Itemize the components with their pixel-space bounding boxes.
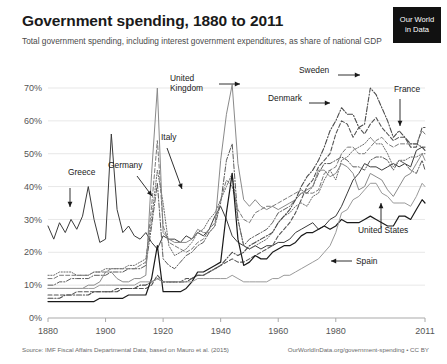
y-axis-tick-label: 50% xyxy=(24,149,42,159)
annotation-arrowhead-france xyxy=(398,121,403,126)
annotation-label-sweden: Sweden xyxy=(299,65,330,75)
annotation-label-spain: Spain xyxy=(356,256,378,266)
y-axis-tick-label: 0% xyxy=(29,313,42,323)
annotation-arrowhead-italy xyxy=(178,183,183,189)
annotation-arrowhead-united-states xyxy=(379,203,384,208)
y-axis-tick-label: 30% xyxy=(24,215,42,225)
annotation-label-italy: Italy xyxy=(161,132,177,142)
y-axis-tick-label: 60% xyxy=(24,116,42,126)
attribution-note[interactable]: OurWorldInData.org/government-spending •… xyxy=(288,346,429,353)
annotation-label-denmark: Denmark xyxy=(268,93,303,103)
x-axis-ticks: 1880190019201940196019802011 xyxy=(38,326,435,336)
y-axis-tick-label: 20% xyxy=(24,247,42,257)
x-axis-tick-label: 1940 xyxy=(211,326,231,336)
annotation-arrowhead-denmark xyxy=(325,101,330,106)
annotation-label-united-states: United States xyxy=(358,225,408,235)
x-axis-tick-label: 1960 xyxy=(268,326,288,336)
x-axis-line xyxy=(48,318,425,322)
series-line-spain[interactable] xyxy=(48,183,425,288)
annotation-arrowhead-united-kingdom xyxy=(235,82,240,87)
line-chart: 0%10%20%30%40%50%60%70% 1880190019201940… xyxy=(0,0,447,364)
x-axis-tick-label: 1900 xyxy=(96,326,116,336)
chart-page: Government spending, 1880 to 2011 Total … xyxy=(0,0,447,364)
x-axis-tick-label: 1980 xyxy=(326,326,346,336)
chart-svg: 0%10%20%30%40%50%60%70% 1880190019201940… xyxy=(0,0,447,364)
annotation-arrowhead-spain xyxy=(331,259,336,264)
y-axis-tick-label: 40% xyxy=(24,182,42,192)
annotation-label-greece: Greece xyxy=(68,167,96,177)
annotation-label-france: France xyxy=(394,84,420,94)
x-axis-tick-label: 1920 xyxy=(153,326,173,336)
x-axis-tick-label: 1880 xyxy=(38,326,58,336)
y-axis-tick-label: 10% xyxy=(24,280,42,290)
annotation-label-germany: Germany xyxy=(108,160,143,170)
y-axis-tick-label: 70% xyxy=(24,83,42,93)
annotation-arrowhead-greece xyxy=(68,202,73,207)
y-axis-ticks: 0%10%20%30%40%50%60%70% xyxy=(24,83,42,323)
series-lines xyxy=(48,85,425,302)
annotation-arrowhead-sweden xyxy=(355,73,360,78)
annotation-arrowhead-germany xyxy=(147,190,152,196)
annotation-label-united-kingdom: UnitedKingdom xyxy=(170,73,203,93)
series-line-united-states[interactable] xyxy=(48,173,425,301)
x-axis-tick-label: 2011 xyxy=(415,326,434,336)
annotation-leader-italy xyxy=(167,148,182,189)
series-line-sweden[interactable] xyxy=(48,88,425,298)
source-note: Source: IMF Fiscal Affairs Departmental … xyxy=(22,346,229,353)
